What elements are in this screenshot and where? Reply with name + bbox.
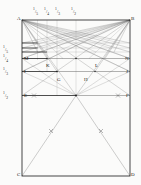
left-fraction-one-fourth-denominator: 4: [6, 59, 8, 63]
corner-label-A: A: [17, 16, 21, 21]
left-fraction-one-third-denominator: 3: [6, 72, 8, 76]
geometric-figure: A B C D K G H L M N I J E F 1/5 1/4 1/3 …: [0, 0, 141, 185]
top-fraction-one-half-denominator: 2: [74, 12, 76, 16]
top-fraction-one-half: 1/2: [71, 8, 76, 16]
top-fraction-one-third: 1/3: [55, 8, 60, 16]
top-fraction-one-fifth: 1/5: [33, 8, 38, 16]
left-fraction-one-half-denominator: 2: [6, 96, 8, 100]
point-label-G: G: [57, 77, 61, 82]
point-label-J: J: [126, 69, 128, 74]
point-label-F: F: [126, 93, 129, 98]
lower-triangle: [22, 96, 130, 177]
construction-lines: [0, 0, 141, 185]
left-fraction-one-third: 1/3: [3, 68, 8, 76]
top-fraction-one-fifth-denominator: 5: [36, 12, 38, 16]
left-fraction-one-half: 1/2: [3, 92, 8, 100]
top-fraction-one-fourth-denominator: 4: [47, 12, 49, 16]
junction-dots: [46, 58, 95, 97]
point-label-H: H: [84, 77, 88, 82]
corner-label-B: B: [131, 16, 134, 21]
point-label-K: K: [46, 63, 50, 68]
tick-marks: [32, 94, 120, 134]
top-fraction-one-fourth: 1/4: [44, 8, 49, 16]
point-label-L: L: [95, 63, 98, 68]
point-label-N: N: [125, 56, 129, 61]
point-label-I: I: [24, 69, 26, 74]
left-fraction-one-fourth: 1/4: [3, 55, 8, 63]
point-label-E: E: [24, 93, 27, 98]
top-fraction-one-third-denominator: 3: [58, 12, 60, 16]
left-fraction-one-fifth-denominator: 5: [6, 50, 8, 54]
point-label-M: M: [24, 56, 29, 61]
corner-label-D: D: [131, 172, 135, 177]
corner-label-C: C: [17, 172, 20, 177]
left-fraction-one-fifth: 1/5: [3, 46, 8, 54]
